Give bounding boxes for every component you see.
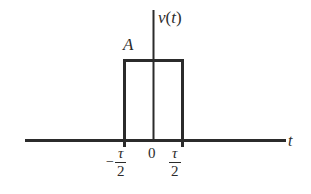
fraction-numerator-tau: τ: [116, 146, 125, 162]
fraction-neg-half-tau: τ 2: [115, 146, 127, 179]
amplitude-label: A: [123, 36, 133, 53]
tick-label-zero: 0: [148, 146, 156, 161]
fraction-numerator-tau: τ: [170, 146, 179, 162]
vertical-axis-label-close-paren: ): [176, 8, 182, 27]
tick-label-neg-half-tau: − τ 2: [106, 146, 126, 179]
fraction-pos-half-tau: τ 2: [169, 146, 181, 179]
horizontal-axis-label: t: [288, 133, 292, 149]
vertical-axis-label-v: v: [158, 8, 166, 27]
fraction-denominator-two: 2: [169, 163, 181, 179]
fraction-denominator-two: 2: [115, 163, 127, 179]
tick-label-pos-half-tau: τ 2: [169, 146, 181, 179]
pulse-waveform-figure: A v(t) t 0 − τ 2 τ 2: [0, 0, 311, 194]
minus-sign: −: [106, 154, 114, 171]
vertical-axis-label: v(t): [158, 9, 182, 26]
plot-canvas: [0, 0, 311, 194]
